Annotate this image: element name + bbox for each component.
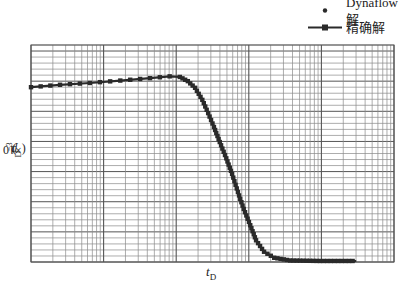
exact-solution-curve [31, 76, 356, 261]
x-axis-label: tD [206, 264, 216, 282]
dynaflow-markers [29, 74, 355, 263]
legend-item-dynaflow: Dynaflow解 [308, 2, 406, 19]
diamond-marker-icon [308, 2, 342, 19]
grid-lines [31, 45, 394, 262]
y-axis-label: pD(×10−3) [4, 110, 24, 190]
line-square-marker-icon [308, 19, 342, 36]
legend: Dynaflow解 精确解 [308, 2, 406, 36]
chart-canvas [0, 0, 406, 288]
legend-label-exact: 精确解 [346, 19, 385, 36]
